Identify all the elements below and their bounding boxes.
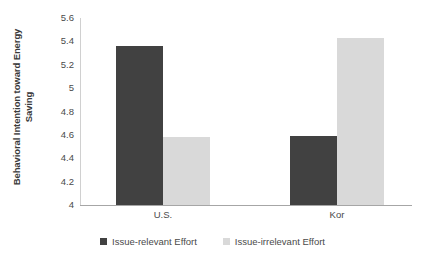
bar [290, 136, 337, 205]
y-axis-tick-label: 5.6 [44, 13, 74, 23]
legend-label: Issue-relevant Effort [112, 236, 197, 247]
plot-area [80, 18, 412, 206]
y-axis-tick-label: 4.8 [44, 107, 74, 117]
y-axis-tick-label: 4.6 [44, 130, 74, 140]
y-axis-title-line2: Saving [23, 92, 34, 123]
x-axis-category-labels: U.S.Kor [80, 208, 412, 224]
y-axis-tick-label: 4 [44, 200, 74, 210]
y-axis-tick-label: 5 [44, 83, 74, 93]
bar [116, 46, 163, 205]
y-axis-tick-label: 5.4 [44, 36, 74, 46]
y-axis-tick-label: 4.2 [44, 177, 74, 187]
bar [337, 38, 384, 205]
legend-swatch-icon [100, 238, 107, 245]
y-axis-tick-label: 5.2 [44, 60, 74, 70]
x-axis-line [80, 205, 412, 206]
bar-chart: Behavioral Intention toward Energy Savin… [0, 0, 425, 264]
legend-label: Issue-irrelevant Effort [235, 236, 325, 247]
legend-item: Issue-irrelevant Effort [223, 236, 325, 247]
y-axis-tick-label: 4.4 [44, 153, 74, 163]
bar [163, 137, 210, 205]
legend-swatch-icon [223, 238, 230, 245]
x-axis-category-label: U.S. [103, 208, 223, 222]
y-axis-line [80, 18, 81, 206]
legend: Issue-relevant EffortIssue-irrelevant Ef… [0, 232, 425, 250]
y-axis-tick-labels: 5.65.45.254.84.64.44.24 [44, 11, 74, 211]
legend-item: Issue-relevant Effort [100, 236, 197, 247]
y-axis-title: Behavioral Intention toward Energy Savin… [0, 0, 46, 214]
x-axis-category-label: Kor [277, 208, 397, 222]
y-axis-title-line1: Behavioral Intention toward Energy [11, 29, 22, 186]
